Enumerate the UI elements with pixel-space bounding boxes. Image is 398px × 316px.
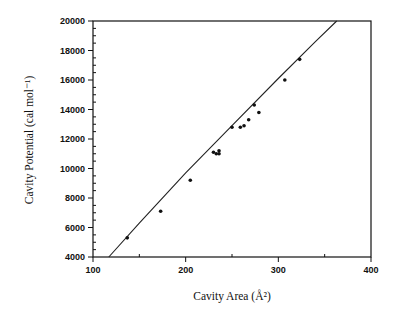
data-point xyxy=(230,125,234,129)
data-point xyxy=(242,124,246,128)
data-points xyxy=(125,58,301,240)
y-axis-ticks: 4000600080001000012000140001600018000200… xyxy=(60,16,96,262)
data-point xyxy=(189,179,193,183)
y-tick-label: 14000 xyxy=(60,105,85,115)
x-tick-label: 100 xyxy=(85,265,100,275)
data-point xyxy=(247,118,251,122)
x-tick-label: 400 xyxy=(363,265,378,275)
y-tick-label: 16000 xyxy=(60,75,85,85)
plot-area xyxy=(93,21,371,257)
data-point xyxy=(298,58,302,62)
y-tick-label: 10000 xyxy=(60,164,85,174)
data-point xyxy=(217,149,221,153)
y-tick-label: 8000 xyxy=(65,193,85,203)
y-tick-label: 12000 xyxy=(60,134,85,144)
plot-frame xyxy=(93,21,371,257)
x-tick-label: 200 xyxy=(178,265,193,275)
data-point xyxy=(125,236,129,240)
y-tick-label: 18000 xyxy=(60,46,85,56)
data-point xyxy=(159,209,163,213)
data-point xyxy=(239,125,243,129)
x-tick-label: 300 xyxy=(271,265,286,275)
scatter-chart: 4000600080001000012000140001600018000200… xyxy=(0,0,398,316)
y-tick-label: 4000 xyxy=(65,252,85,262)
data-point xyxy=(257,111,261,115)
y-axis-title: Cavity Potential (cal mol⁻¹) xyxy=(23,76,36,205)
data-point xyxy=(283,78,287,82)
data-point xyxy=(252,103,256,107)
y-tick-label: 6000 xyxy=(65,223,85,233)
x-axis-title: Cavity Area (Å²) xyxy=(193,289,271,303)
y-tick-label: 20000 xyxy=(60,16,85,26)
fit-curve xyxy=(109,21,337,257)
